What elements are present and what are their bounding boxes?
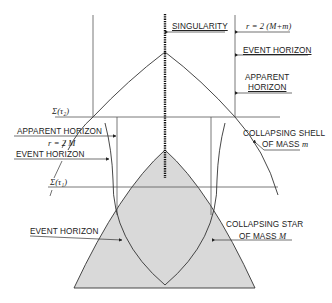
roof-right	[165, 52, 235, 117]
label-sigma-tau2: Σ(τ₂)	[52, 107, 69, 116]
label-apparent-horizon-right-1: APPARENT	[245, 73, 289, 82]
label-collapsing-shell-2: OF MASS m	[262, 140, 308, 149]
label-r-outer: r = 2 (M+m)	[246, 22, 291, 31]
shell-of-mass-text: OF MASS	[262, 140, 300, 149]
label-event-horizon-top: EVENT HORIZON	[243, 46, 311, 55]
shell-mass-symbol: m	[302, 139, 308, 149]
label-apparent-horizon-left: APPARENT HORIZON	[17, 127, 102, 136]
roof-left	[93, 52, 165, 117]
label-r-inner: r = 2 M	[48, 139, 75, 148]
label-event-horizon-bottom: EVENT HORIZON	[30, 227, 98, 236]
label-singularity: SINGULARITY	[172, 22, 228, 31]
label-collapsing-star-1: COLLAPSING STAR	[226, 220, 303, 229]
star-mass-symbol: M	[279, 231, 286, 241]
label-collapsing-star-2: OF MASS M	[239, 232, 286, 241]
label-sigma-tau1: Σ(τ₁)	[50, 178, 67, 187]
star-of-mass-text: OF MASS	[239, 232, 277, 241]
label-apparent-horizon-right-2: HORIZON	[248, 83, 286, 92]
label-collapsing-shell-1: COLLAPSING SHELL	[243, 129, 325, 138]
label-event-horizon-left: EVENT HORIZON	[16, 150, 84, 159]
